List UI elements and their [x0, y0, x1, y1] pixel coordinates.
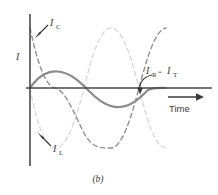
leader-arrow-inductive-icon	[38, 133, 52, 147]
label-capacitive: I C	[49, 17, 61, 31]
leader-arrow-capacitive-icon	[35, 25, 49, 39]
label-capacitive-subscript: C	[56, 23, 61, 31]
curve-resultant	[30, 71, 166, 107]
x-axis-label: Time	[169, 103, 190, 114]
time-arrow-icon	[168, 93, 204, 100]
label-resultant-subscript-1: R	[152, 71, 157, 79]
label-resultant: I R = I T	[145, 65, 178, 79]
label-inductive-subscript: L	[59, 149, 63, 157]
label-capacitive-symbol: I	[49, 17, 54, 28]
label-resultant-symbol-2: I	[166, 65, 171, 76]
waveform-figure: I I C I L I R = I T Time (b)	[0, 0, 218, 195]
label-inductive-symbol: I	[52, 143, 57, 154]
y-axis-label: I	[15, 51, 20, 62]
figure-caption: (b)	[92, 174, 103, 185]
label-resultant-equals: =	[158, 68, 162, 76]
label-resultant-subscript-2: T	[173, 71, 178, 79]
waveform-svg: I I C I L I R = I T Time (b)	[0, 0, 218, 195]
label-resultant-symbol-1: I	[145, 65, 150, 76]
